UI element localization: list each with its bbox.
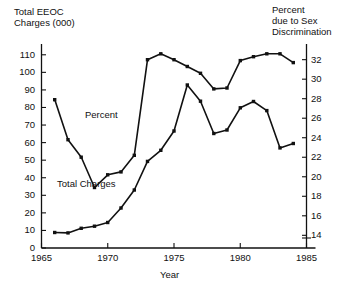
data-point (199, 72, 202, 75)
data-point (172, 129, 175, 132)
percent-series-label: Percent (85, 109, 118, 120)
data-point (146, 58, 149, 61)
axes (42, 44, 316, 248)
data-point (292, 142, 295, 145)
total-charges-series-label: Total Charges (57, 178, 116, 189)
data-point (133, 188, 136, 191)
data-point (252, 55, 255, 58)
x-tick-label-1980: 1980 (220, 252, 260, 263)
data-point (80, 227, 83, 230)
y2-tick-label-28: 28 (311, 93, 337, 104)
data-point (159, 52, 162, 55)
data-point (278, 52, 281, 55)
x-axis-label: Year (160, 269, 179, 280)
series-total-charges (53, 83, 295, 234)
y2-tick-label-30: 30 (311, 73, 337, 84)
data-point (265, 52, 268, 55)
x-tick-label-1975: 1975 (154, 252, 194, 263)
data-point (199, 100, 202, 103)
data-point (119, 206, 122, 209)
y2-tick-label-16: 16 (311, 210, 337, 221)
y-tick-label-40: 40 (9, 172, 35, 183)
y2-tick-label-24: 24 (311, 132, 337, 143)
y-tick-label-100: 100 (9, 66, 35, 77)
data-point (186, 65, 189, 68)
data-point (212, 132, 215, 135)
y-tick-label-50: 50 (9, 154, 35, 165)
data-series (53, 52, 295, 235)
data-point (239, 106, 242, 109)
y-tick-label-110: 110 (9, 49, 35, 60)
y2-tick-label-26: 26 (311, 112, 337, 123)
data-point (186, 83, 189, 86)
data-point (225, 86, 228, 89)
y2-tick-label-18: 18 (311, 190, 337, 201)
data-point (119, 170, 122, 173)
data-point (80, 156, 83, 159)
y2-tick-label-14: 14 (311, 229, 337, 240)
y-tick-label-60: 60 (9, 137, 35, 148)
data-point (53, 231, 56, 234)
data-point (172, 58, 175, 61)
y-tick-label-90: 90 (9, 84, 35, 95)
data-point (239, 59, 242, 62)
data-point (133, 154, 136, 157)
chart-figure: Total EEOCCharges (000) Percentdue to Se… (0, 0, 363, 286)
y-tick-label-70: 70 (9, 119, 35, 130)
data-point (53, 98, 56, 101)
x-tick-label-1965: 1965 (22, 252, 62, 263)
data-point (159, 149, 162, 152)
y2-tick-label-20: 20 (311, 171, 337, 182)
data-point (292, 61, 295, 64)
x-tick-label-1985: 1985 (287, 252, 327, 263)
data-point (225, 128, 228, 131)
data-point (265, 109, 268, 112)
data-point (252, 100, 255, 103)
data-point (106, 221, 109, 224)
y-tick-label-80: 80 (9, 101, 35, 112)
data-point (278, 146, 281, 149)
y-tick-label-10: 10 (9, 224, 35, 235)
y2-tick-label-32: 32 (311, 54, 337, 65)
plot-area (0, 0, 363, 286)
series-percent (53, 52, 295, 189)
y2-tick-label-22: 22 (311, 151, 337, 162)
data-point (66, 231, 69, 234)
y-tick-label-20: 20 (9, 207, 35, 218)
data-point (93, 225, 96, 228)
x-tick-label-1970: 1970 (88, 252, 128, 263)
data-point (106, 173, 109, 176)
data-point (146, 160, 149, 163)
y-tick-label-30: 30 (9, 189, 35, 200)
data-point (212, 87, 215, 90)
tick-marks (42, 55, 312, 248)
data-point (66, 138, 69, 141)
